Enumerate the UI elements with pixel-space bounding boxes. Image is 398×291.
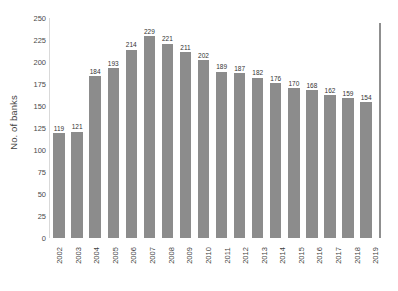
bar-series: 1191211841932142292212112021891871821761… <box>50 18 375 238</box>
plot-right-border-rule <box>379 23 382 238</box>
bar-value-label: 193 <box>108 61 119 68</box>
bar-value-label: 168 <box>306 83 317 90</box>
x-axis-tick-label: 2004 <box>92 247 101 264</box>
bar: 229 <box>144 36 155 238</box>
x-axis-tick-label: 2013 <box>260 247 269 264</box>
bar-slot: 176 <box>267 18 285 238</box>
bar-slot: 184 <box>86 18 104 238</box>
y-axis-tick-label: 0 <box>42 234 46 243</box>
bar-slot: 214 <box>122 18 140 238</box>
y-axis-tick-label: 200 <box>33 58 46 67</box>
bar-slot: 119 <box>50 18 68 238</box>
bar-value-label: 211 <box>180 45 190 52</box>
bar: 189 <box>216 72 227 238</box>
bar-value-label: 229 <box>144 29 155 36</box>
x-axis-tick-slot: 2019 <box>366 240 385 286</box>
bar-slot: 121 <box>68 18 86 238</box>
bar: 162 <box>324 95 335 238</box>
bar-chart: No. of banks 250225200175150125100755025… <box>0 0 398 291</box>
x-axis-tick-label: 2011 <box>222 247 231 263</box>
bar-value-label: 176 <box>270 76 281 83</box>
bar-value-label: 184 <box>90 69 101 76</box>
bar-slot: 221 <box>158 18 176 238</box>
x-axis-tick-labels: 2002200320042005200620072008200920102011… <box>50 240 385 286</box>
x-axis-tick-label: 2005 <box>111 247 120 264</box>
bar-slot: 193 <box>104 18 122 238</box>
y-axis-tick-label: 150 <box>33 102 46 111</box>
x-axis-tick-label: 2012 <box>241 247 250 264</box>
y-axis-tick-label: 125 <box>33 124 46 133</box>
plot-area: 1191211841932142292212112021891871821761… <box>49 18 385 238</box>
x-axis-tick-label: 2018 <box>353 247 362 264</box>
bar: 211 <box>180 52 191 238</box>
bar-slot: 182 <box>249 18 267 238</box>
y-axis-tick-label: 50 <box>38 190 46 199</box>
x-axis-tick-label: 2016 <box>315 247 324 264</box>
bar-slot: 202 <box>195 18 213 238</box>
bar-slot: 189 <box>213 18 231 238</box>
y-axis-title: No. of banks <box>2 0 24 245</box>
bar-value-label: 162 <box>325 88 336 95</box>
bar-value-label: 119 <box>54 126 64 133</box>
x-axis-tick-label: 2007 <box>148 247 157 264</box>
x-axis-tick-slot: 2004 <box>87 240 106 286</box>
bar: 170 <box>288 88 299 238</box>
bar-value-label: 187 <box>234 66 245 73</box>
x-axis-tick-label: 2014 <box>278 247 287 264</box>
y-axis-tick-label: 225 <box>33 36 46 45</box>
bar: 154 <box>360 102 371 238</box>
x-axis-tick-slot: 2013 <box>255 240 274 286</box>
bar-slot: 229 <box>140 18 158 238</box>
y-axis-tick-label: 175 <box>33 80 46 89</box>
bar-slot: 154 <box>357 18 375 238</box>
x-axis-tick-label: 2002 <box>55 247 64 264</box>
bar-value-label: 182 <box>252 70 263 77</box>
x-axis-tick-slot: 2015 <box>292 240 311 286</box>
bar-slot: 170 <box>285 18 303 238</box>
bar-value-label: 214 <box>126 42 137 49</box>
x-axis-tick-slot: 2006 <box>124 240 143 286</box>
bar-slot: 187 <box>231 18 249 238</box>
x-axis-tick-slot: 2003 <box>69 240 88 286</box>
x-axis-tick-slot: 2018 <box>348 240 367 286</box>
bar: 184 <box>89 76 100 238</box>
x-axis-tick-slot: 2017 <box>329 240 348 286</box>
x-axis-tick-slot: 2008 <box>162 240 181 286</box>
bar: 168 <box>306 90 317 238</box>
bar: 202 <box>198 60 209 238</box>
bar: 159 <box>342 98 353 238</box>
x-axis-tick-label: 2019 <box>371 247 380 264</box>
bar: 119 <box>53 133 64 238</box>
x-axis-tick-slot: 2007 <box>143 240 162 286</box>
bar-slot: 162 <box>321 18 339 238</box>
bar-value-label: 154 <box>361 95 372 102</box>
x-axis-tick-slot: 2002 <box>50 240 69 286</box>
bar: 182 <box>252 78 263 238</box>
x-axis-tick-label: 2015 <box>297 247 306 264</box>
bar: 193 <box>108 68 119 238</box>
x-axis-tick-slot: 2011 <box>217 240 236 286</box>
y-axis-title-text: No. of banks <box>8 95 19 150</box>
bar: 214 <box>126 50 137 238</box>
bar-slot: 159 <box>339 18 357 238</box>
x-axis-tick-label: 2003 <box>73 247 82 264</box>
y-axis-tick-label: 75 <box>38 168 46 177</box>
bar-value-label: 202 <box>198 53 209 60</box>
x-axis-tick-slot: 2009 <box>180 240 199 286</box>
y-axis-tick-labels: 2502252001751501251007550250 <box>24 18 46 238</box>
bar: 187 <box>234 73 245 238</box>
x-axis-tick-label: 2008 <box>166 247 175 264</box>
y-axis-tick-label: 25 <box>38 212 46 221</box>
bar-slot: 168 <box>303 18 321 238</box>
y-axis-tick-label: 250 <box>33 14 46 23</box>
bar-value-label: 189 <box>216 64 227 71</box>
bar-value-label: 159 <box>343 91 354 98</box>
bar: 176 <box>270 83 281 238</box>
x-axis-tick-slot: 2014 <box>273 240 292 286</box>
y-axis-tick-label: 100 <box>33 146 46 155</box>
bar-slot: 211 <box>176 18 194 238</box>
bar-value-label: 170 <box>288 81 299 88</box>
x-axis-tick-slot: 2016 <box>311 240 330 286</box>
bar: 221 <box>162 44 173 238</box>
x-axis-tick-slot: 2012 <box>236 240 255 286</box>
